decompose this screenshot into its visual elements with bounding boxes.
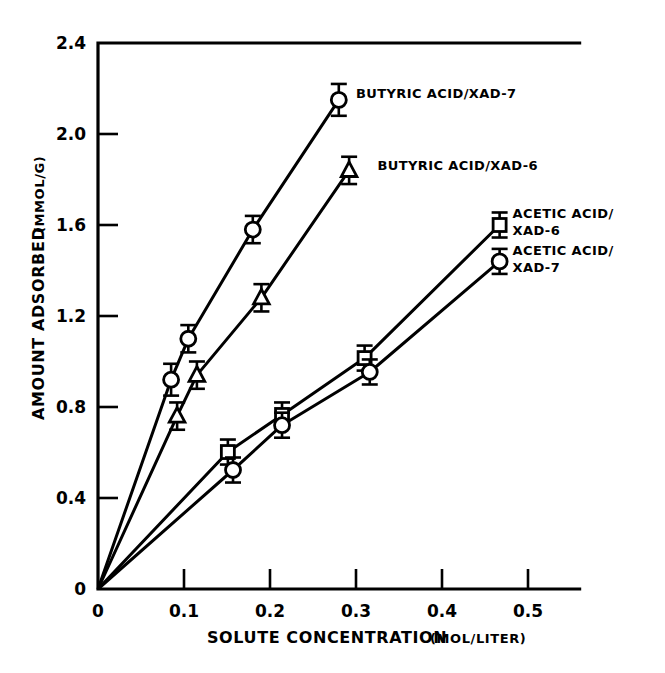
y-tick-label: 0.4 (56, 488, 86, 508)
x-axis-title: SOLUTE CONCENTRATION (MOL/LITER) (207, 628, 526, 647)
svg-text:(MMOL/G): (MMOL/G) (32, 156, 47, 233)
x-tick-label: 0 (92, 601, 104, 621)
marker-circle (331, 92, 346, 107)
chart-figure: 00.40.81.21.62.02.4 00.10.20.30.40.5 BUT… (0, 0, 665, 673)
x-tick-label: 0.5 (513, 601, 543, 621)
adsorption-isotherm-plot: 00.40.81.21.62.02.4 00.10.20.30.40.5 BUT… (0, 0, 665, 673)
series-1 (98, 84, 347, 589)
x-axis-ticks (184, 569, 528, 589)
y-tick-label: 0 (74, 579, 86, 599)
x-tick-label: 0.2 (255, 601, 285, 621)
marker-circle (362, 364, 377, 379)
series-line (98, 100, 339, 589)
y-axis-tick-labels: 00.40.81.21.62.02.4 (56, 33, 86, 599)
svg-text:SOLUTE CONCENTRATION: SOLUTE CONCENTRATION (207, 628, 447, 647)
series-2 (98, 157, 357, 589)
marker-triangle (341, 162, 357, 177)
series-3 (98, 212, 508, 589)
series-label-2: BUTYRIC ACID/XAD-6 (378, 158, 538, 173)
y-tick-label: 0.8 (56, 397, 86, 417)
y-tick-label: 2.0 (56, 124, 86, 144)
series-4 (98, 249, 508, 589)
y-axis-ticks (98, 134, 118, 498)
series-label-3: ACETIC ACID/ (513, 206, 614, 221)
marker-square (493, 219, 506, 232)
marker-circle (164, 372, 179, 387)
svg-text:AMOUNT ADSORBED: AMOUNT ADSORBED (29, 227, 48, 420)
marker-circle (181, 331, 196, 346)
series-label-4-line2: XAD-7 (513, 260, 561, 275)
y-tick-label: 2.4 (56, 33, 86, 53)
y-tick-label: 1.6 (56, 215, 86, 235)
plot-frame (98, 43, 580, 589)
x-tick-label: 0.1 (169, 601, 199, 621)
y-tick-label: 1.2 (56, 306, 86, 326)
series-annotations: BUTYRIC ACID/XAD-7BUTYRIC ACID/XAD-6ACET… (356, 86, 614, 275)
marker-circle (275, 418, 290, 433)
x-axis-tick-labels: 00.10.20.30.40.5 (92, 601, 543, 621)
marker-circle (245, 222, 260, 237)
x-tick-label: 0.3 (341, 601, 371, 621)
y-axis-title: AMOUNT ADSORBED (MMOL/G) (29, 156, 48, 420)
series-line (98, 261, 500, 589)
series-label-1: BUTYRIC ACID/XAD-7 (356, 86, 516, 101)
series-line (98, 170, 349, 589)
series-label-3-line2: XAD-6 (513, 223, 561, 238)
marker-circle (226, 463, 241, 478)
svg-text:(MOL/LITER): (MOL/LITER) (430, 631, 526, 646)
series-label-4: ACETIC ACID/ (513, 243, 614, 258)
marker-circle (492, 254, 507, 269)
marker-triangle (169, 408, 185, 423)
x-tick-label: 0.4 (427, 601, 457, 621)
